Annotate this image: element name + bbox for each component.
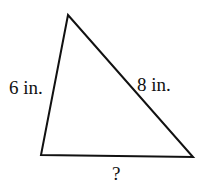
side-left-label: 6 in. xyxy=(9,78,43,97)
side-bottom-label: ? xyxy=(112,164,120,183)
side-right-label: 8 in. xyxy=(137,75,171,94)
triangle-diagram: 6 in. 8 in. ? xyxy=(0,0,205,187)
